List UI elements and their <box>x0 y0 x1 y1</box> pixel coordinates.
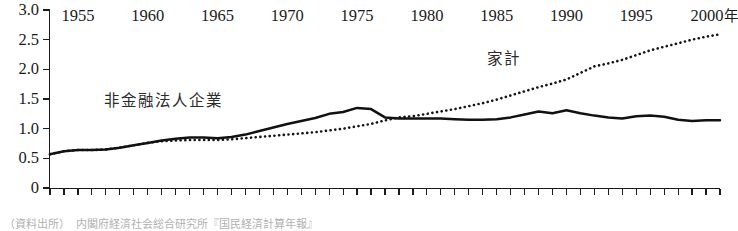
series-label-nonfinancial-corporations: 非金融法人企業 <box>104 88 223 110</box>
source-footnote: （資料出所） 内閣府経済社会総合研究所『国民経済計算年報』 <box>4 215 720 231</box>
series-line-nonfinancial-corporations <box>50 108 720 154</box>
series-label-household: 家計 <box>487 46 521 68</box>
